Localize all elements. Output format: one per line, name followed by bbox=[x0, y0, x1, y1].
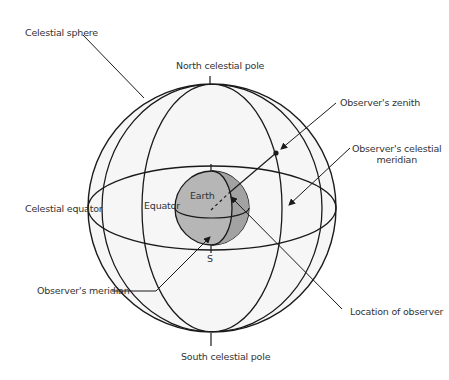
label-observers-zenith: Observer's zenith bbox=[340, 97, 420, 108]
label-equator: Equator bbox=[144, 200, 180, 211]
label-celestial-sphere: Celestial sphere bbox=[25, 27, 98, 38]
celestial-sphere-pointer bbox=[83, 35, 144, 98]
label-line-1: Observer's celestial bbox=[352, 143, 442, 154]
label-observers-celestial-meridian: Observer's celestial meridian bbox=[352, 143, 442, 165]
label-south-celestial-pole: South celestial pole bbox=[181, 351, 270, 362]
zenith-point bbox=[273, 150, 278, 155]
label-celestial-equator: Celestial equator bbox=[25, 203, 103, 214]
label-location-of-observer: Location of observer bbox=[350, 306, 443, 317]
label-observers-meridian: Observer's meridian bbox=[37, 285, 130, 296]
label-line-2: meridian bbox=[352, 154, 442, 165]
label-north-celestial-pole: North celestial pole bbox=[176, 60, 264, 71]
celestial-sphere-diagram bbox=[0, 0, 449, 380]
label-s: S bbox=[207, 253, 213, 264]
label-earth: Earth bbox=[190, 190, 214, 201]
